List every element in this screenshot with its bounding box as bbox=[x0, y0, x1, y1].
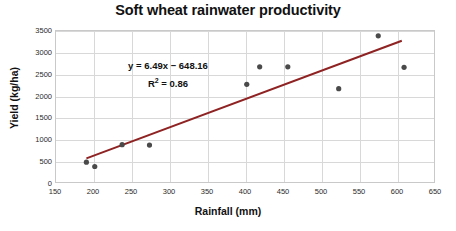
trendline bbox=[86, 41, 401, 159]
x-tick-label: 500 bbox=[301, 187, 341, 196]
data-point bbox=[84, 160, 89, 165]
x-axis-label: Rainfall (mm) bbox=[0, 205, 456, 217]
data-point bbox=[120, 142, 125, 147]
x-tick-label: 450 bbox=[263, 187, 303, 196]
x-tick-label: 350 bbox=[187, 187, 227, 196]
x-tick-label: 600 bbox=[377, 187, 417, 196]
data-point bbox=[92, 164, 97, 169]
data-point bbox=[285, 64, 290, 69]
y-axis-label: Yield (kg/ha) bbox=[8, 38, 20, 158]
x-tick-label: 550 bbox=[339, 187, 379, 196]
x-tick-label: 400 bbox=[225, 187, 265, 196]
chart-title: Soft wheat rainwater productivity bbox=[0, 2, 456, 18]
x-tick-label: 250 bbox=[111, 187, 151, 196]
data-point bbox=[401, 65, 406, 70]
y-tick-label: 3500 bbox=[12, 26, 52, 35]
x-tick-label: 150 bbox=[35, 187, 75, 196]
x-tick-label: 650 bbox=[415, 187, 455, 196]
x-axis-tick-labels: 150200250300350400450500550600650 bbox=[55, 187, 435, 199]
scatter-series-svg bbox=[56, 31, 435, 183]
x-tick-label: 300 bbox=[149, 187, 189, 196]
data-point bbox=[257, 64, 262, 69]
data-point bbox=[244, 82, 249, 87]
data-point bbox=[336, 86, 341, 91]
chart-container: Soft wheat rainwater productivity 050010… bbox=[0, 0, 456, 231]
data-point bbox=[147, 142, 152, 147]
data-point bbox=[376, 33, 381, 38]
x-tick-label: 200 bbox=[73, 187, 113, 196]
plot-area bbox=[55, 30, 435, 183]
